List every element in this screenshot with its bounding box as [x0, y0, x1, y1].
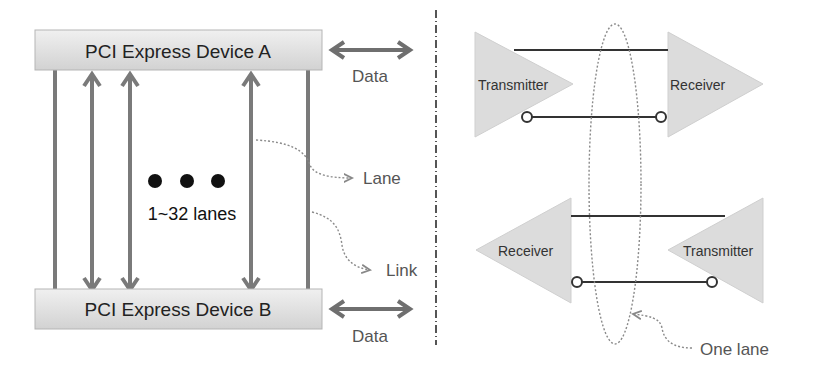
terminal-icon: [656, 112, 666, 122]
bottom-receiver-label: Receiver: [498, 243, 554, 259]
terminal-icon: [522, 112, 532, 122]
data-top-label: Data: [352, 67, 388, 86]
link-diagram: PCI Express Device A PCI Express Device …: [35, 30, 418, 346]
link-callout-line: [312, 212, 370, 270]
device-b-label: PCI Express Device B: [85, 299, 272, 320]
data-bottom-label: Data: [352, 327, 388, 346]
device-b-box: PCI Express Device B: [35, 289, 322, 329]
one-lane-callout-line: [633, 314, 692, 348]
lane-arrow: [243, 74, 259, 290]
bottom-transmitter-label: Transmitter: [683, 243, 754, 259]
more-lanes-dots-icon: [148, 174, 225, 188]
one-lane-label: One lane: [700, 340, 769, 359]
terminal-icon: [707, 277, 717, 287]
lane-arrow: [84, 74, 100, 290]
terminal-icon: [572, 277, 582, 287]
one-lane-ellipse: [589, 24, 641, 344]
top-transmitter-label: Transmitter: [478, 77, 549, 93]
data-arrow-top-icon: [332, 42, 410, 58]
pcie-diagram: PCI Express Device A PCI Express Device …: [0, 0, 821, 385]
device-a-box: PCI Express Device A: [35, 30, 322, 70]
link-label: Link: [386, 261, 418, 280]
lane-label: Lane: [363, 169, 401, 188]
device-a-label: PCI Express Device A: [85, 41, 271, 62]
data-arrow-bottom-icon: [332, 301, 410, 317]
lanes-count-label: 1~32 lanes: [148, 204, 237, 224]
lane-arrow: [122, 74, 138, 290]
lane-detail-diagram: Transmitter Receiver Receiver Transmitte…: [475, 24, 769, 359]
lane-callout-line: [256, 140, 352, 178]
top-receiver-label: Receiver: [670, 77, 726, 93]
